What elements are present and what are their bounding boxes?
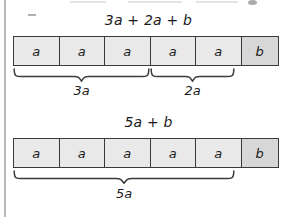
bar-cell-a: a xyxy=(196,139,242,167)
bar-model-row-2: a a a a a b xyxy=(13,138,279,168)
bar-cell-a: a xyxy=(105,139,151,167)
expression-term-2: b xyxy=(164,114,173,130)
page-margin-rule xyxy=(4,0,6,217)
bar-cell-a: a xyxy=(151,37,197,65)
bar-cell-a: a xyxy=(196,37,242,65)
scan-artifact xyxy=(70,1,106,3)
brace-5a-icon xyxy=(13,170,235,184)
bar-cell-a: a xyxy=(105,37,151,65)
expression-operator-2: + xyxy=(167,12,179,28)
expression-term-1: 5a xyxy=(124,114,142,130)
expression-label-2: 5a + b xyxy=(0,112,291,132)
brace-2a-icon xyxy=(150,68,235,82)
expression-term-1: 3a xyxy=(105,12,123,28)
scan-artifact xyxy=(248,0,257,5)
bar-model-row-1: a a a a a b xyxy=(13,36,279,66)
expression-operator-1: + xyxy=(147,114,159,130)
bar-cell-a: a xyxy=(60,37,106,65)
bar-model-diagram-1: 3a + 2a + b a a a a a b 3a 2a xyxy=(0,10,291,30)
brace-label-3a: 3a xyxy=(13,83,150,98)
bar-model-diagram-2: 5a + b a a a a a b 5a xyxy=(0,112,291,132)
brace-label-5a: 5a xyxy=(13,186,235,201)
bar-cell-a: a xyxy=(151,139,197,167)
brace-label-2a: 2a xyxy=(150,83,235,98)
brace-3a-icon xyxy=(13,68,150,82)
expression-label-1: 3a + 2a + b xyxy=(0,10,291,30)
expression-term-2: 2a xyxy=(144,12,162,28)
bar-cell-a: a xyxy=(14,37,60,65)
expression-operator-1: + xyxy=(127,12,139,28)
bar-cell-a: a xyxy=(14,139,60,167)
scan-artifact xyxy=(128,1,182,3)
bar-cell-b: b xyxy=(242,37,279,65)
bar-cell-a: a xyxy=(60,139,106,167)
expression-term-3: b xyxy=(183,12,192,28)
scan-artifact xyxy=(196,1,238,3)
bar-cell-b: b xyxy=(242,139,279,167)
